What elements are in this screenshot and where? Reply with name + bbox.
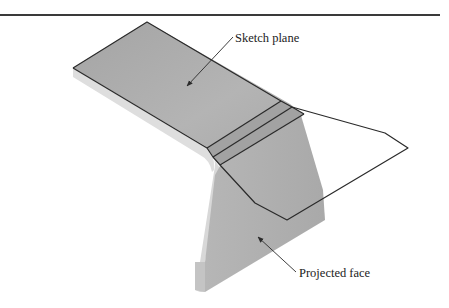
sketch-plane-label: Sketch plane: [235, 31, 299, 46]
projected-face-label: Projected face: [299, 266, 370, 281]
bent-part-diagram: [0, 0, 449, 308]
